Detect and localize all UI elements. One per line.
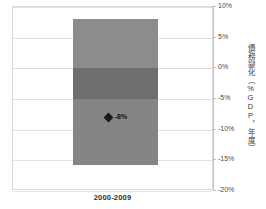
- y-axis-tick: [213, 159, 216, 160]
- y-axis-tick-label: 5%: [218, 33, 228, 40]
- top-cropped-text-left: [14, 0, 156, 4]
- y-axis-tick: [213, 6, 216, 7]
- y-axis-tick-label: -5%: [218, 94, 230, 101]
- box-band-lower: [73, 99, 158, 165]
- y-axis-tick-label: -15%: [218, 155, 234, 162]
- chart-plot-area: -8%: [12, 6, 213, 190]
- y-axis-tick-label: -10%: [218, 125, 234, 132]
- y-axis-tick-label: -20%: [218, 186, 234, 193]
- y-axis-title: 債務變化（%GDP，年度）: [243, 44, 255, 152]
- y-axis-tick-label: 10%: [218, 2, 232, 9]
- gridline-10pct: [13, 7, 212, 8]
- gridline--20pct: [13, 191, 212, 192]
- box-band-upper: [73, 19, 158, 68]
- x-axis-tick-label: 2000-2009: [12, 193, 213, 202]
- y-axis-tick: [213, 98, 216, 99]
- box-plot-range: [73, 19, 158, 164]
- median-marker-label: -8%: [115, 113, 128, 120]
- box-band-middle: [73, 68, 158, 99]
- y-axis-tick: [213, 67, 216, 68]
- y-axis-tick-label: 0%: [218, 63, 228, 70]
- y-axis-tick: [213, 37, 216, 38]
- y-axis-tick: [213, 129, 216, 130]
- y-axis-tick: [213, 190, 216, 191]
